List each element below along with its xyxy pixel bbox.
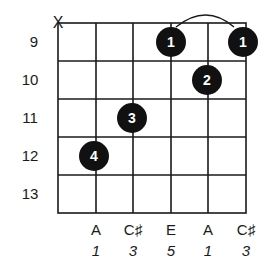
fretboard-grid <box>58 23 246 213</box>
svg-text:1: 1 <box>167 34 175 50</box>
note-name: A <box>203 221 213 238</box>
intervals: 1 3 5 1 3 <box>92 242 251 259</box>
finger-dot: 1 <box>228 27 258 57</box>
svg-text:2: 2 <box>203 72 211 88</box>
interval: 3 <box>242 242 251 259</box>
note-name: C♯ <box>237 221 256 238</box>
interval: 5 <box>167 242 176 259</box>
finger-dot: 3 <box>117 103 147 133</box>
note-name: E <box>166 221 176 238</box>
fret-number: 9 <box>30 33 38 50</box>
svg-text:1: 1 <box>239 34 247 50</box>
interval: 1 <box>204 242 212 259</box>
svg-text:3: 3 <box>128 110 136 126</box>
note-name: A <box>91 221 101 238</box>
interval: 1 <box>92 242 100 259</box>
finger-dot: 4 <box>79 141 109 171</box>
note-name: C♯ <box>124 221 143 238</box>
fret-number: 12 <box>22 147 39 164</box>
barre-arc <box>176 15 234 27</box>
finger-dot: 1 <box>156 27 186 57</box>
fret-number: 11 <box>22 109 38 126</box>
svg-text:4: 4 <box>90 148 98 164</box>
fret-number: 13 <box>22 185 39 202</box>
note-names: A C♯ E A C♯ <box>91 221 256 238</box>
fret-number: 10 <box>22 71 39 88</box>
finger-dot: 2 <box>192 65 222 95</box>
interval: 3 <box>129 242 138 259</box>
fret-numbers: 9 10 11 12 13 <box>22 33 39 202</box>
chord-diagram: X 9 10 11 12 13 1 1 2 <box>0 0 273 280</box>
